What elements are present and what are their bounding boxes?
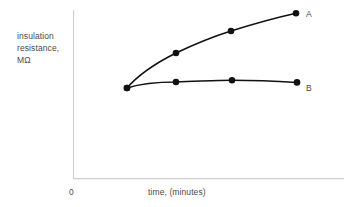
data-point xyxy=(124,85,131,92)
series-label-b: B xyxy=(306,83,312,93)
data-point xyxy=(173,50,180,57)
series-b-curve xyxy=(127,80,297,88)
series-b-markers xyxy=(124,77,301,91)
chart-container: insulation resistance, MΩ time, (minutes… xyxy=(0,0,357,207)
data-point xyxy=(294,79,301,86)
series-a-curve xyxy=(127,13,296,88)
y-axis-label-line-2: resistance, xyxy=(17,42,77,54)
series-a-markers xyxy=(124,10,300,91)
data-point xyxy=(293,10,300,17)
data-point xyxy=(229,77,236,84)
y-axis-label-line-3: MΩ xyxy=(17,54,77,66)
data-point xyxy=(173,79,180,86)
origin-tick-label: 0 xyxy=(69,186,74,198)
series-label-a: A xyxy=(306,9,312,19)
data-point xyxy=(228,28,235,35)
x-axis-label: time, (minutes) xyxy=(148,186,206,198)
y-axis-label: insulation resistance, MΩ xyxy=(17,30,77,66)
y-axis-label-line-1: insulation xyxy=(17,30,77,42)
